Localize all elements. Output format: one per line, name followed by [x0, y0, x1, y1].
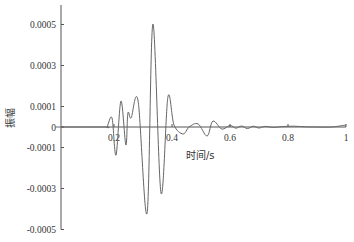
- x-tick-label: 0.4: [166, 133, 178, 143]
- x-tick-label: 1: [344, 133, 349, 143]
- amplitude-line: [56, 24, 346, 214]
- x-axis-title: 时间/s: [186, 149, 215, 161]
- y-tick-label: -0.0001: [27, 143, 57, 153]
- y-tick-label: 0.0003: [30, 61, 56, 71]
- y-tick-label: 0: [51, 123, 56, 133]
- y-tick-label: 0.0005: [30, 20, 56, 30]
- x-tick-label: 0.8: [282, 133, 294, 143]
- y-axis-title: 振幅: [4, 108, 16, 128]
- waveform-chart: 0.00050.00030.00010-0.0001-0.0003-0.0005…: [0, 0, 354, 242]
- y-tick-label: -0.0005: [27, 225, 57, 235]
- y-axis: 0.00050.00030.00010-0.0001-0.0003-0.0005: [27, 5, 64, 235]
- x-tick-label: 0.6: [224, 133, 236, 143]
- y-tick-label: 0.0001: [30, 102, 56, 112]
- y-tick-label: -0.0003: [27, 184, 57, 194]
